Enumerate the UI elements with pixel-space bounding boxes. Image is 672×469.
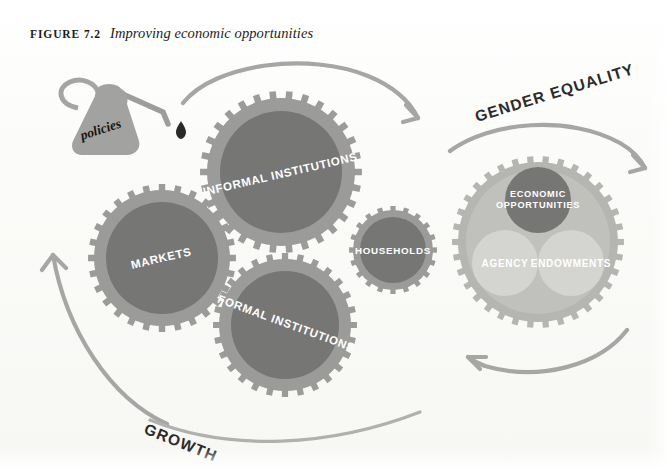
oil-drop-icon bbox=[176, 121, 186, 139]
gear-gender-equality[interactable]: AGENCY ENDOWMENTS ECONOMIC OPPORTUNITIES bbox=[452, 156, 624, 328]
circle-label-endowments: ENDOWMENTS bbox=[531, 258, 611, 269]
gear-formal-institutions[interactable]: FORMAL INSTITUTIONS bbox=[213, 253, 357, 397]
gear-households[interactable]: HOUSEHOLDS bbox=[349, 206, 437, 294]
gear-markets[interactable]: MARKETS bbox=[88, 184, 236, 332]
circle-label-economic-opportunities-line2: OPPORTUNITIES bbox=[496, 200, 580, 210]
circle-label-economic-opportunities-line1: ECONOMIC bbox=[510, 189, 566, 199]
page-edge-right bbox=[648, 0, 672, 469]
page-edge-bottom bbox=[0, 449, 672, 469]
circle-label-agency: AGENCY bbox=[482, 258, 529, 269]
flow-label-gender-equality: GENDER EQUALITY bbox=[473, 60, 636, 125]
oil-can-icon: policies bbox=[61, 80, 186, 155]
figure-page: FIGURE 7.2Improving economic opportuniti… bbox=[0, 0, 672, 469]
arrow-bottom-right-icon bbox=[468, 330, 627, 372]
circle-agency[interactable]: AGENCY bbox=[472, 230, 538, 296]
gear-label-households: HOUSEHOLDS bbox=[355, 245, 431, 256]
gear-diagram: policies INFORMAL INSTITUTIONS bbox=[0, 0, 672, 469]
flow-label-gender-equality-text: GENDER EQUALITY bbox=[473, 60, 636, 125]
